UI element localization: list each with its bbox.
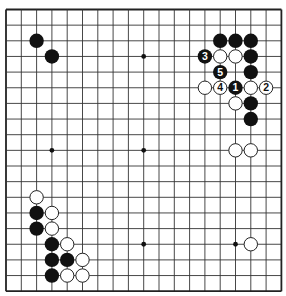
move-number-label: 5 [217, 66, 223, 78]
white-stone [76, 253, 89, 266]
white-stone [198, 81, 211, 94]
black-stone [29, 221, 43, 235]
black-stone [228, 34, 242, 48]
move-number-label: 2 [263, 81, 269, 93]
black-stone [60, 253, 74, 267]
white-stone [244, 144, 257, 157]
white-stone-move-2: 2 [259, 81, 272, 94]
white-stone [229, 97, 242, 110]
black-stone [29, 34, 43, 48]
black-stone [29, 206, 43, 220]
white-stone [60, 238, 73, 251]
black-stone [45, 49, 59, 63]
black-stone [45, 237, 59, 251]
star-point [141, 54, 146, 59]
star-point [141, 242, 146, 247]
black-stone [45, 253, 59, 267]
white-stone [214, 50, 227, 63]
black-stone-move-1: 1 [228, 81, 242, 95]
white-stone [45, 222, 58, 235]
white-stone [229, 50, 242, 63]
white-stone [76, 269, 89, 282]
white-stone [45, 206, 58, 219]
star-point [50, 148, 55, 153]
move-number-label: 4 [217, 81, 223, 93]
black-stone [244, 112, 258, 126]
white-stone [30, 191, 43, 204]
white-stone [60, 269, 73, 282]
black-stone [213, 34, 227, 48]
white-stone [244, 81, 257, 94]
move-number-label: 1 [233, 81, 239, 93]
white-stone-move-4: 4 [214, 81, 227, 94]
black-stone [244, 34, 258, 48]
black-stone [244, 49, 258, 63]
move-number-label: 3 [202, 50, 208, 62]
black-stone-move-3: 3 [198, 49, 212, 63]
black-stone [244, 96, 258, 110]
star-point [141, 148, 146, 153]
black-stone [45, 268, 59, 282]
black-stone [244, 65, 258, 79]
star-point [233, 242, 238, 247]
white-stone [229, 144, 242, 157]
white-stone [244, 238, 257, 251]
go-board-diagram: 35142 [0, 0, 286, 296]
black-stone-move-5: 5 [213, 65, 227, 79]
go-board: 35142 [0, 0, 286, 296]
